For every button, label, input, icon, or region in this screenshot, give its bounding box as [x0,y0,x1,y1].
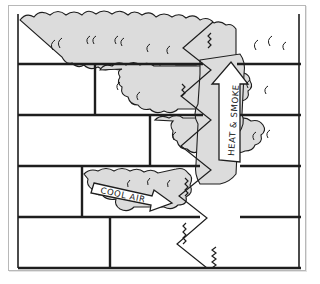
building-diagram: HEAT & SMOKE COOL AIR [0,0,320,284]
